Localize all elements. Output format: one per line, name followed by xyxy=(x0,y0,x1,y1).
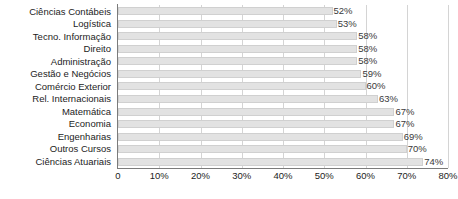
x-axis-tick-label: 0 xyxy=(115,171,120,181)
bar-row: 58% xyxy=(118,43,448,56)
bar[interactable]: 52% xyxy=(118,7,333,15)
bar-row: 59% xyxy=(118,68,448,81)
x-axis-tick-label: 50% xyxy=(315,171,334,181)
bar[interactable]: 70% xyxy=(118,145,407,153)
bar[interactable]: 58% xyxy=(118,57,357,65)
bar-row: 67% xyxy=(118,105,448,118)
bar-row: 74% xyxy=(118,155,448,168)
x-axis-line xyxy=(117,168,448,169)
bar[interactable]: 69% xyxy=(118,133,403,141)
x-axis-tick-label: 30% xyxy=(232,171,251,181)
y-axis-label: Rel. Internacionais xyxy=(0,93,114,106)
bar[interactable]: 53% xyxy=(118,20,337,28)
bar-row: 69% xyxy=(118,130,448,143)
bar-row: 70% xyxy=(118,143,448,156)
bar-row: 63% xyxy=(118,93,448,106)
y-axis-label: Gestão e Negócios xyxy=(0,68,114,81)
bar-value-label: 67% xyxy=(395,107,414,117)
bar-row: 52% xyxy=(118,5,448,18)
bar-value-label: 63% xyxy=(379,94,398,104)
y-axis-category-labels: Ciências ContábeisLogísticaTecno. Inform… xyxy=(0,5,114,168)
bar[interactable]: 58% xyxy=(118,45,357,53)
bar-row: 53% xyxy=(118,18,448,31)
x-axis-tick-label: 40% xyxy=(273,171,292,181)
y-axis-label: Logística xyxy=(0,18,114,31)
bar-row: 58% xyxy=(118,30,448,43)
bar-value-label: 70% xyxy=(408,144,427,154)
bar[interactable]: 60% xyxy=(118,82,366,90)
x-axis-tick-label: 70% xyxy=(397,171,416,181)
bar[interactable]: 59% xyxy=(118,70,361,78)
bar-value-label: 59% xyxy=(362,69,381,79)
y-axis-label: Ciências Atuariais xyxy=(0,155,114,168)
bar[interactable]: 67% xyxy=(118,120,394,128)
x-axis-tick-labels: 010%20%30%40%50%60%70%80% xyxy=(118,171,448,187)
y-axis-label: Direito xyxy=(0,43,114,56)
bar-value-label: 67% xyxy=(395,119,414,129)
bar-value-label: 58% xyxy=(358,44,377,54)
plot-area: 52%53%58%58%58%59%60%63%67%67%69%70%74% xyxy=(118,5,448,168)
y-axis-label: Comércio Exterior xyxy=(0,80,114,93)
x-axis-tick-label: 10% xyxy=(150,171,169,181)
gridline-80 xyxy=(448,5,449,168)
bar-row: 58% xyxy=(118,55,448,68)
bar-rows: 52%53%58%58%58%59%60%63%67%67%69%70%74% xyxy=(118,5,448,168)
bar-value-label: 74% xyxy=(424,157,443,167)
y-axis-label: Ciências Contábeis xyxy=(0,5,114,18)
bar-value-label: 53% xyxy=(338,19,357,29)
y-axis-label: Engenharias xyxy=(0,130,114,143)
bar-value-label: 69% xyxy=(404,132,423,142)
bar-row: 67% xyxy=(118,118,448,131)
bar-row: 60% xyxy=(118,80,448,93)
bar[interactable]: 63% xyxy=(118,95,378,103)
bar-value-label: 58% xyxy=(358,57,377,67)
bar-value-label: 52% xyxy=(334,7,353,17)
bar-value-label: 58% xyxy=(358,32,377,42)
y-axis-label: Outros Cursos xyxy=(0,143,114,156)
x-axis-tick-label: 60% xyxy=(356,171,375,181)
y-axis-label: Tecno. Informação xyxy=(0,30,114,43)
bar[interactable]: 58% xyxy=(118,32,357,40)
y-axis-label: Matemática xyxy=(0,105,114,118)
y-axis-label: Administração xyxy=(0,55,114,68)
bar-value-label: 60% xyxy=(367,82,386,92)
x-axis-tick-label: 20% xyxy=(191,171,210,181)
bar[interactable]: 67% xyxy=(118,108,394,116)
y-axis-label: Economia xyxy=(0,118,114,131)
x-axis-tick-label: 80% xyxy=(438,171,457,181)
bar[interactable]: 74% xyxy=(118,158,423,166)
